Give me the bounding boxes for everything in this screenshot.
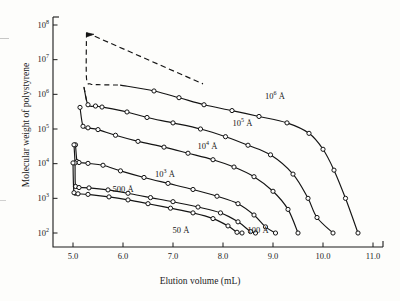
curve-label: 100 Å	[248, 225, 269, 235]
data-marker	[72, 143, 76, 147]
data-marker	[211, 158, 215, 162]
data-marker	[71, 161, 75, 165]
data-marker	[240, 231, 244, 235]
data-marker	[321, 147, 325, 151]
dashed-upper-branch-10⁶ Å	[87, 33, 204, 84]
x-tick-label-5.0: 5.0	[53, 251, 93, 261]
data-marker	[252, 213, 256, 217]
data-marker	[191, 187, 195, 191]
data-marker	[331, 231, 335, 235]
data-marker	[125, 110, 129, 114]
data-marker	[236, 220, 240, 224]
data-marker	[285, 121, 289, 125]
data-marker	[171, 200, 175, 204]
data-marker	[93, 104, 97, 108]
data-marker	[196, 205, 200, 209]
x-tick-label-11.0: 11.0	[353, 251, 393, 261]
data-marker	[152, 89, 156, 93]
data-marker	[246, 143, 250, 147]
data-marker	[235, 230, 239, 234]
data-marker	[191, 211, 195, 215]
data-marker	[76, 192, 80, 196]
page-edge-mark-left	[0, 38, 9, 39]
data-marker	[332, 168, 336, 172]
curve-10⁶ Å	[121, 85, 359, 233]
data-marker	[106, 188, 110, 192]
data-marker	[101, 163, 105, 167]
data-marker	[86, 192, 90, 196]
chart-figure: Molecular weight of polystyrene Elution …	[0, 0, 400, 301]
data-marker	[307, 131, 311, 135]
curve-10³ Å	[76, 145, 276, 233]
y-tick-label-1e4: 104	[9, 157, 49, 168]
data-marker	[215, 194, 219, 198]
data-marker	[148, 196, 152, 200]
data-marker	[113, 133, 117, 137]
y-tick-label-1e6: 106	[9, 88, 49, 99]
data-marker	[186, 151, 190, 155]
data-marker	[232, 165, 236, 169]
x-tick-label-10.0: 10.0	[303, 251, 343, 261]
data-marker	[126, 198, 130, 202]
data-marker	[296, 231, 300, 235]
page-edge-mark-left-lower	[0, 200, 6, 201]
data-marker	[177, 96, 181, 100]
data-marker	[86, 161, 90, 165]
x-tick-label-9.0: 9.0	[253, 251, 293, 261]
data-marker	[81, 124, 85, 128]
x-tick-label-8.0: 8.0	[203, 251, 243, 261]
curve-label: 104 Å	[198, 140, 218, 151]
curve-label: 105 Å	[233, 117, 253, 128]
data-marker	[142, 175, 146, 179]
data-marker	[291, 172, 295, 176]
data-marker	[78, 105, 82, 109]
curve-label: 103 Å	[155, 168, 175, 179]
y-tick-label-1e2: 102	[9, 227, 49, 238]
curve-label: 500 Å	[113, 184, 134, 194]
data-marker	[230, 108, 234, 112]
data-marker	[223, 135, 227, 139]
data-marker	[211, 217, 215, 221]
data-marker	[271, 189, 275, 193]
y-tick-label-1e7: 107	[9, 53, 49, 64]
data-marker	[202, 103, 206, 107]
arrowhead-10⁶ Å	[87, 33, 95, 37]
data-marker	[86, 126, 90, 130]
data-marker	[145, 115, 149, 119]
data-marker	[146, 202, 150, 206]
data-marker	[162, 145, 166, 149]
data-marker	[198, 127, 202, 131]
y-tick-label-1e8: 108	[9, 19, 49, 30]
y-tick-label-1e5: 105	[9, 123, 49, 134]
x-tick-label-6.0: 6.0	[103, 251, 143, 261]
data-marker	[77, 185, 81, 189]
data-marker	[171, 121, 175, 125]
y-tick-label-1e3: 103	[9, 192, 49, 203]
curve-500 Å	[74, 145, 256, 233]
data-marker	[226, 224, 230, 228]
data-marker	[107, 195, 111, 199]
data-marker	[218, 211, 222, 215]
data-marker	[236, 202, 240, 206]
data-marker	[343, 196, 347, 200]
data-marker	[166, 181, 170, 185]
curve-label: 50 Å	[173, 225, 190, 235]
data-marker	[268, 153, 272, 157]
data-marker	[168, 206, 172, 210]
x-tick-label-7.0: 7.0	[153, 251, 193, 261]
data-marker	[257, 114, 261, 118]
data-marker	[118, 169, 122, 173]
curve-label: 106 Å	[265, 90, 285, 101]
data-marker	[87, 186, 91, 190]
data-marker	[136, 139, 140, 143]
data-marker	[356, 231, 360, 235]
data-marker	[286, 207, 290, 211]
data-marker	[96, 128, 100, 132]
curve-10⁵ Å	[84, 87, 333, 233]
data-marker	[315, 215, 319, 219]
data-marker	[306, 196, 310, 200]
data-marker	[100, 105, 104, 109]
data-marker	[273, 231, 277, 235]
data-marker	[86, 103, 90, 107]
data-marker	[252, 175, 256, 179]
